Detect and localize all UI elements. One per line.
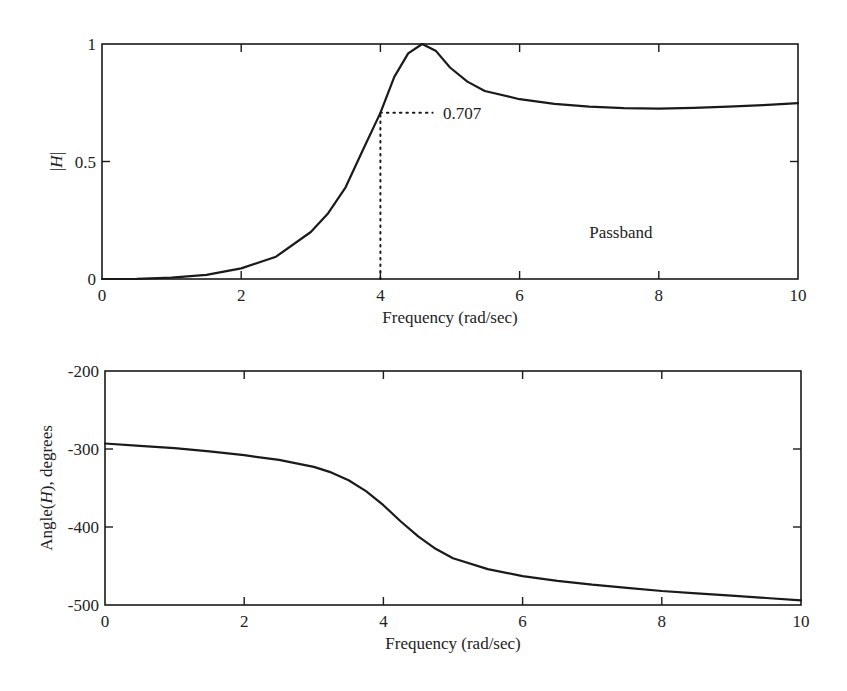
y-label-part: | xyxy=(47,152,66,155)
phase-plot: 0246810 -500-400-300-200 Frequency (rad/… xyxy=(37,362,810,653)
y-tick-label: 0 xyxy=(88,270,97,289)
passband-annotation: Passband xyxy=(589,223,653,242)
magnitude-curve-layer xyxy=(102,44,798,279)
x-tick-label: 0 xyxy=(98,286,107,305)
phase-curve xyxy=(105,444,801,601)
y-tick-label: -500 xyxy=(68,596,99,615)
magnitude-y-axis-label: |H| xyxy=(47,152,66,171)
x-tick-label: 6 xyxy=(515,286,524,305)
x-tick-label: 2 xyxy=(240,612,249,631)
x-tick-label: 0 xyxy=(101,612,110,631)
magnitude-x-axis-label: Frequency (rad/sec) xyxy=(382,308,517,327)
magnitude-plot: 0.707 Passband 0246810 00.51 Frequency (… xyxy=(47,35,807,327)
y-tick-label: 0.5 xyxy=(75,153,96,172)
x-tick-label: 8 xyxy=(655,286,664,305)
x-tick-label: 10 xyxy=(790,286,807,305)
phase-curve-layer xyxy=(105,444,801,601)
magnitude-plot-frame xyxy=(102,44,798,279)
y-tick-label: 1 xyxy=(88,35,97,54)
phase-y-ticks: -500-400-300-200 xyxy=(68,362,801,615)
phase-x-ticks: 0246810 xyxy=(101,371,810,631)
magnitude-annotations: 0.707 Passband xyxy=(380,104,653,279)
magnitude-x-ticks: 0246810 xyxy=(98,44,807,305)
y-label-part: ), degrees xyxy=(37,425,56,491)
phase-plot-frame xyxy=(105,371,801,605)
x-tick-label: 4 xyxy=(376,286,385,305)
phase-x-axis-label: Frequency (rad/sec) xyxy=(385,634,520,653)
y-tick-label: -400 xyxy=(68,518,99,537)
magnitude-curve xyxy=(102,44,798,279)
x-tick-label: 10 xyxy=(793,612,810,631)
magnitude-y-ticks: 00.51 xyxy=(75,35,798,289)
x-tick-label: 6 xyxy=(518,612,527,631)
phase-y-axis-label: Angle(H), degrees xyxy=(37,425,56,551)
y-label-part: Angle( xyxy=(37,503,56,551)
y-tick-label: -300 xyxy=(68,440,99,459)
x-tick-label: 8 xyxy=(658,612,667,631)
bode-figure: 0.707 Passband 0246810 00.51 Frequency (… xyxy=(0,0,847,691)
cutoff-value-annotation: 0.707 xyxy=(443,104,482,123)
y-tick-label: -200 xyxy=(68,362,99,381)
x-tick-label: 4 xyxy=(379,612,388,631)
x-tick-label: 2 xyxy=(237,286,246,305)
